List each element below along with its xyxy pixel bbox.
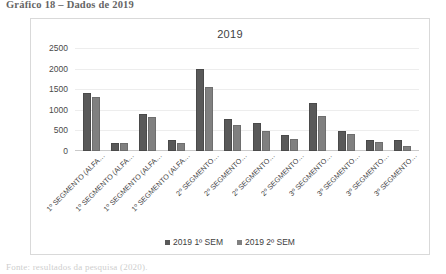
bar-group — [247, 48, 275, 151]
bar[interactable] — [111, 143, 119, 151]
y-axis-tick-label: 1000 — [49, 106, 68, 115]
bar[interactable] — [233, 125, 241, 151]
legend-swatch-icon — [237, 240, 242, 245]
chart-title: 2019 — [31, 28, 429, 40]
bar[interactable] — [281, 135, 289, 151]
bar[interactable] — [375, 142, 383, 151]
bar-group — [389, 48, 417, 151]
bar[interactable] — [139, 114, 147, 151]
bar-group — [304, 48, 332, 151]
y-axis-tick-label: 1500 — [49, 85, 68, 94]
bar[interactable] — [148, 117, 156, 151]
bar-group — [219, 48, 247, 151]
y-axis-tick-label: 0 — [63, 147, 68, 156]
chart-container: 2019 25002000150010005000 1º SEGMENTO (A… — [30, 18, 430, 255]
legend-item[interactable]: 2019 1º SEM — [165, 237, 223, 247]
bar[interactable] — [253, 123, 261, 151]
bar[interactable] — [394, 140, 402, 151]
bar[interactable] — [290, 139, 298, 151]
bar-group — [360, 48, 388, 151]
bar[interactable] — [92, 97, 100, 151]
bar[interactable] — [366, 140, 374, 151]
x-axis-labels: 1º SEGMENTO (ALFA…1º SEGMENTO (ALFA…1º S… — [75, 152, 419, 224]
legend-label: 2019 1º SEM — [173, 237, 223, 247]
bar[interactable] — [224, 119, 232, 151]
legend-label: 2019 2º SEM — [245, 237, 295, 247]
legend-swatch-icon — [165, 240, 170, 245]
chart-legend: 2019 1º SEM2019 2º SEM — [31, 237, 429, 247]
bar[interactable] — [347, 134, 355, 151]
bar-group — [77, 48, 105, 151]
bar-group — [190, 48, 218, 151]
bar-group — [275, 48, 303, 151]
y-axis-tick-label: 500 — [54, 126, 68, 135]
bar-group — [134, 48, 162, 151]
bar[interactable] — [83, 93, 91, 151]
y-axis-tick-label: 2500 — [49, 44, 68, 53]
bar[interactable] — [168, 140, 176, 151]
bar-group — [105, 48, 133, 151]
bar[interactable] — [120, 143, 128, 151]
y-axis: 25002000150010005000 — [31, 48, 71, 151]
bar[interactable] — [177, 143, 185, 151]
legend-item[interactable]: 2019 2º SEM — [237, 237, 295, 247]
bar-group — [162, 48, 190, 151]
y-axis-tick-label: 2000 — [49, 64, 68, 73]
bar[interactable] — [318, 116, 326, 151]
bar[interactable] — [196, 69, 204, 151]
plot-area — [75, 48, 419, 151]
bar[interactable] — [403, 146, 411, 151]
document-caption-top: Gráfico 18 – Dados de 2019 — [6, 0, 134, 10]
document-caption-bottom: Fonte: resultados da pesquisa (2020). — [6, 262, 148, 272]
bar[interactable] — [205, 87, 213, 151]
bar[interactable] — [309, 103, 317, 151]
bar-series-container — [75, 48, 419, 151]
bar-group — [332, 48, 360, 151]
bar[interactable] — [262, 131, 270, 151]
bar[interactable] — [338, 131, 346, 151]
